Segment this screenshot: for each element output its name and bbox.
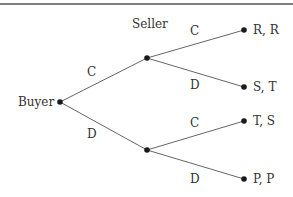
- payoff-label-4: P, P: [253, 172, 274, 186]
- player-label-seller: Seller: [132, 17, 168, 31]
- edge-label-buyer-c: C: [87, 65, 96, 79]
- edge-buyer-defect: [60, 102, 147, 150]
- edge-label-seller-top-d: D: [190, 78, 200, 92]
- payoff-label-3: T, S: [253, 114, 275, 128]
- leaf-node-2: [241, 84, 247, 90]
- edge-label-seller-top-c: C: [190, 24, 199, 38]
- edge-label-buyer-d: D: [87, 127, 97, 141]
- edge-label-seller-bottom-d: D: [190, 172, 200, 186]
- node-seller-bottom: [144, 147, 150, 153]
- leaf-node-1: [241, 27, 247, 33]
- payoff-label-1: R, R: [253, 23, 280, 37]
- edge-label-seller-bottom-c: C: [190, 116, 199, 130]
- player-label-buyer: Buyer: [18, 95, 54, 109]
- edge-buyer-cooperate: [60, 58, 147, 102]
- game-tree-diagram: Buyer Seller C D C D C D R, R S, T T, S …: [0, 0, 293, 197]
- leaf-node-3: [241, 118, 247, 124]
- node-seller-top: [144, 55, 150, 61]
- node-buyer: [57, 99, 63, 105]
- leaf-node-4: [241, 176, 247, 182]
- payoff-label-2: S, T: [253, 80, 276, 94]
